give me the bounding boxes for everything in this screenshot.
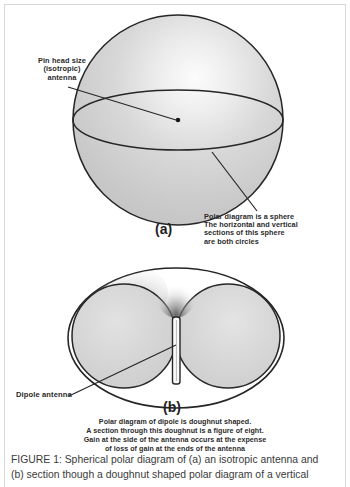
panel-a-label: (a) (155, 221, 172, 237)
panel-a-sphere-group (68, 15, 283, 225)
annotation-isotropic-antenna: Pin head size (isotropic) antenna (14, 57, 110, 82)
isotropic-source-point (176, 118, 181, 123)
lobe-notch-shadow (157, 274, 195, 318)
figure-caption: FIGURE 1: Spherical polar diagram of (a)… (11, 452, 343, 482)
figure-page: Pin head size (isotropic) antenna Polar … (0, 0, 350, 487)
panel-b-dipole-group (68, 262, 284, 408)
annotation-dipole-antenna: Dipole antenna (16, 391, 72, 400)
panel-b-label: (b) (163, 399, 181, 415)
panel-b-description-text: Polar diagram of dipole is doughnut shap… (40, 418, 310, 454)
annotation-polar-diagram-sphere: Polar diagram is a sphere The horizontal… (204, 213, 346, 246)
